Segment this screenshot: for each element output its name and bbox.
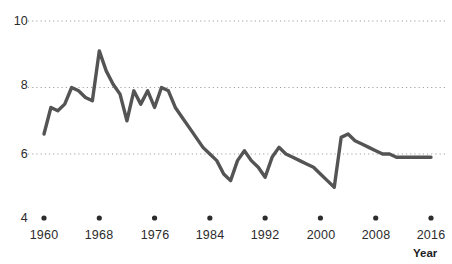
x-tick-dot-1960 [41, 215, 46, 220]
x-tick-dot-1984 [207, 215, 212, 220]
x-tick-dot-1968 [97, 215, 102, 220]
x-tick-label-2016: 2016 [409, 228, 452, 242]
line-chart: 10 8 6 4 1960 1968 1976 1984 1992 2000 2… [0, 0, 452, 264]
y-tick-label-8: 8 [6, 78, 28, 92]
x-tick-dot-2008 [373, 215, 378, 220]
x-axis-title: Year [413, 247, 437, 259]
x-tick-dot-1992 [263, 215, 268, 220]
data-series-line [44, 51, 431, 187]
x-tick-label-1968: 1968 [77, 228, 121, 242]
x-tick-label-2008: 2008 [354, 228, 398, 242]
x-tick-label-1992: 1992 [243, 228, 287, 242]
gridlines-group [28, 21, 447, 154]
x-tick-dots-group [41, 215, 433, 220]
x-tick-label-1960: 1960 [22, 228, 66, 242]
x-tick-label-1976: 1976 [133, 228, 177, 242]
x-tick-dot-2000 [318, 215, 323, 220]
y-tick-label-6: 6 [6, 147, 28, 161]
x-tick-label-2000: 2000 [299, 228, 343, 242]
x-tick-dot-1976 [152, 215, 157, 220]
y-tick-label-4: 4 [6, 211, 28, 225]
y-tick-label-10: 10 [6, 14, 28, 28]
x-tick-label-1984: 1984 [188, 228, 232, 242]
chart-plot-area [0, 0, 452, 264]
x-tick-dot-2016 [428, 215, 433, 220]
